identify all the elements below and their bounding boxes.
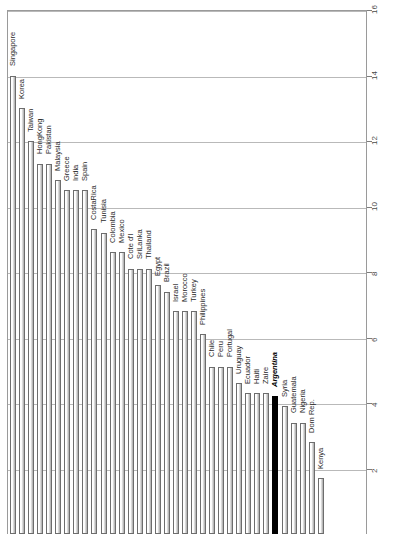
bar-label: Turkey — [190, 279, 198, 302]
bar-label: Portugal — [226, 330, 234, 358]
bar[interactable] — [200, 334, 206, 534]
bar-group: Korea — [19, 0, 25, 534]
bar[interactable] — [318, 478, 324, 534]
chart-page: SingaporeKoreaTaiwanHongKongPakistanMala… — [0, 0, 397, 535]
bar-group: Malaysia — [55, 0, 61, 534]
bar-group: Egypt — [155, 0, 161, 534]
bar-group: Spain — [82, 0, 88, 534]
bar[interactable] — [282, 406, 288, 534]
bar-group: Israel — [173, 0, 179, 534]
bar[interactable] — [164, 292, 170, 534]
bar-label: Cote d'I — [127, 234, 135, 260]
bar-group: Taiwan — [28, 0, 34, 534]
bar[interactable] — [236, 383, 242, 534]
bar-group: Pakistan — [46, 0, 52, 534]
bar[interactable] — [110, 252, 116, 534]
bar-group: Nigeria — [300, 0, 306, 534]
bar-group: Ecuador — [245, 0, 251, 534]
bar-label: Philippines — [199, 288, 207, 324]
bar-label: Singapore — [9, 32, 17, 66]
bar-group: Tunisia — [101, 0, 107, 534]
bar-group: Singapore — [10, 0, 16, 534]
bar-label: HongKong — [36, 119, 44, 154]
bar-label: Dom Rep. — [308, 399, 316, 433]
bar-label: Egypt — [154, 256, 162, 275]
bar-label: Spain — [82, 161, 90, 180]
bar[interactable] — [309, 442, 315, 534]
bar[interactable] — [218, 367, 224, 534]
bar[interactable] — [28, 141, 34, 534]
bar-group: Guatemala — [291, 0, 297, 534]
bar-group: Haiti — [254, 0, 260, 534]
bar[interactable] — [82, 190, 88, 534]
axis-tick-label: 6 — [371, 337, 379, 341]
bar-group: Colombia — [110, 0, 116, 534]
bar-label: Peru — [217, 342, 225, 358]
bar-highlighted[interactable] — [272, 396, 278, 534]
bar-group: Brazil — [164, 0, 170, 534]
bar-group: India — [73, 0, 79, 534]
bar[interactable] — [254, 393, 260, 534]
bar[interactable] — [46, 164, 52, 534]
bar[interactable] — [173, 311, 179, 534]
bars-layer: SingaporeKoreaTaiwanHongKongPakistanMala… — [0, 0, 397, 535]
bar[interactable] — [19, 108, 25, 534]
bar-label: Syria — [281, 380, 289, 397]
bar[interactable] — [182, 311, 188, 534]
bar-group: SriLanka — [137, 0, 143, 534]
bar[interactable] — [191, 311, 197, 534]
bar-group: Portugal — [227, 0, 233, 534]
bar-group: Mexico — [119, 0, 125, 534]
bar-label: Korea — [18, 79, 26, 99]
bar-label: Mexico — [118, 219, 126, 243]
bar[interactable] — [64, 190, 70, 534]
bar-label: India — [73, 164, 81, 180]
bar-label: Israel — [172, 283, 180, 301]
bar-label: SriLanka — [136, 230, 144, 260]
bar-group: Dom Rep. — [309, 0, 315, 534]
bar[interactable] — [137, 269, 143, 534]
bar-group: Thailand — [146, 0, 152, 534]
bar-label: Tunisia — [100, 199, 108, 223]
axis-tick-label: 4 — [371, 403, 379, 407]
bar[interactable] — [128, 269, 134, 534]
bar-group: Uruguay — [236, 0, 242, 534]
bar[interactable] — [300, 423, 306, 534]
axis-tick-label: 12 — [371, 136, 379, 145]
bar[interactable] — [227, 367, 233, 534]
bar[interactable] — [263, 393, 269, 534]
bar-label: Guatemala — [290, 376, 298, 413]
bar-group: Zaire — [263, 0, 269, 534]
bar[interactable] — [146, 269, 152, 534]
bar[interactable] — [209, 367, 215, 534]
bar[interactable] — [245, 393, 251, 534]
bar-label: Zaire — [263, 367, 271, 384]
bar-group: Argentina — [272, 0, 278, 534]
bar-group: Morocco — [182, 0, 188, 534]
axis-tick-label: 10 — [371, 202, 379, 211]
bar[interactable] — [55, 180, 61, 534]
axis-tick-label: 2 — [371, 468, 379, 472]
bar-label: Pakistan — [45, 126, 53, 155]
axis-tick-label: 8 — [371, 272, 379, 276]
bar[interactable] — [10, 76, 16, 535]
bar-group: Greece — [64, 0, 70, 534]
bar[interactable] — [155, 285, 161, 534]
bar-label: Greece — [64, 156, 72, 181]
bar[interactable] — [119, 252, 125, 534]
bar-group: HongKong — [37, 0, 43, 534]
bar-group: Peru — [218, 0, 224, 534]
axis-tick-label: 14 — [371, 71, 379, 80]
bar[interactable] — [291, 423, 297, 534]
bar[interactable] — [101, 233, 107, 534]
bar-label: Kenya — [317, 448, 325, 469]
bar-group: CostaRica — [91, 0, 97, 534]
bar-label: Ecuador — [245, 356, 253, 384]
bar-group: Chile — [209, 0, 215, 534]
axis-tick-label: 16 — [371, 5, 379, 14]
bar[interactable] — [73, 190, 79, 534]
bar-label: Argentina — [272, 352, 280, 387]
bar[interactable] — [91, 229, 97, 534]
bar-label: Nigeria — [299, 389, 307, 413]
bar[interactable] — [37, 164, 43, 534]
